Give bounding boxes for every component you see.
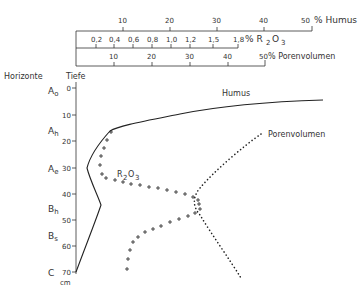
- horizon-bs: Bs: [48, 231, 58, 243]
- svg-text:1,5: 1,5: [208, 36, 219, 44]
- svg-text:0,4: 0,4: [109, 36, 121, 44]
- humus-curve: [76, 100, 323, 272]
- porenvolumen-curve: [194, 134, 261, 278]
- svg-text:2: 2: [266, 39, 270, 47]
- r2o3-curve-label: R 2 O 3: [117, 170, 139, 182]
- tiefe-label: Tiefe: [65, 72, 86, 81]
- svg-text:30: 30: [185, 53, 194, 61]
- svg-text:50: 50: [301, 17, 310, 25]
- svg-text:70: 70: [62, 269, 71, 277]
- horizon-ae: Ae: [48, 164, 58, 176]
- svg-text:0,6: 0,6: [128, 36, 140, 44]
- svg-text:20: 20: [147, 53, 156, 61]
- horizon-labels: Ao Ah Ae Bh Bs C: [48, 86, 59, 278]
- svg-text:0,8: 0,8: [147, 36, 158, 44]
- svg-text:10: 10: [109, 53, 118, 61]
- r2o3-tick-labels: 0,2 0,4 0,6 0,8 1,0 1,2 1,5 1,8: [91, 36, 244, 44]
- svg-text:0,2: 0,2: [91, 36, 102, 44]
- svg-text:1,0: 1,0: [166, 36, 177, 44]
- svg-text:2: 2: [123, 174, 127, 182]
- soil-profile-chart: 10 20 30 40 50 % Humus 0,2 0,4 0,6 0,8 1…: [0, 0, 363, 289]
- svg-text:3: 3: [135, 174, 139, 182]
- horizon-ah: Ah: [48, 126, 59, 138]
- svg-text:O: O: [128, 170, 134, 179]
- svg-text:20: 20: [62, 138, 71, 146]
- porenvolumen-curve-label: Porenvolumen: [268, 130, 325, 139]
- horizonte-label: Horizonte: [4, 72, 43, 81]
- depth-tick-labels: 0 10 20 30 40 50 60 70: [62, 85, 71, 277]
- cm-label: cm: [60, 279, 71, 287]
- svg-text:1,2: 1,2: [185, 36, 196, 44]
- humus-axis-title: % Humus: [314, 15, 357, 25]
- svg-text:% R: % R: [245, 34, 263, 44]
- svg-text:20: 20: [165, 17, 174, 25]
- svg-text:50: 50: [259, 53, 268, 61]
- horizon-c: C: [48, 268, 54, 278]
- svg-text:40: 40: [223, 53, 232, 61]
- humus-tick-labels: 10 20 30 40 50: [118, 17, 310, 25]
- svg-text:30: 30: [212, 17, 221, 25]
- svg-text:3: 3: [281, 39, 285, 47]
- horizon-bh: Bh: [48, 204, 59, 216]
- svg-text:1,8: 1,8: [233, 36, 244, 44]
- horizon-ao: Ao: [48, 86, 58, 98]
- r2o3-curve: [98, 130, 202, 271]
- svg-text:60: 60: [62, 243, 71, 251]
- porenvolumen-tick-labels: 10 20 30 40 50: [109, 53, 268, 61]
- r2o3-axis-title: % R 2 O 3: [245, 34, 285, 47]
- svg-text:30: 30: [62, 165, 71, 173]
- svg-text:O: O: [272, 34, 279, 44]
- svg-text:40: 40: [259, 17, 268, 25]
- svg-text:10: 10: [62, 112, 71, 120]
- humus-curve-label: Humus: [222, 89, 250, 98]
- svg-text:40: 40: [62, 191, 71, 199]
- svg-text:0: 0: [67, 85, 71, 93]
- porenvolumen-axis-title: % Porenvolumen: [268, 52, 335, 61]
- svg-text:10: 10: [118, 17, 127, 25]
- svg-text:50: 50: [62, 217, 71, 225]
